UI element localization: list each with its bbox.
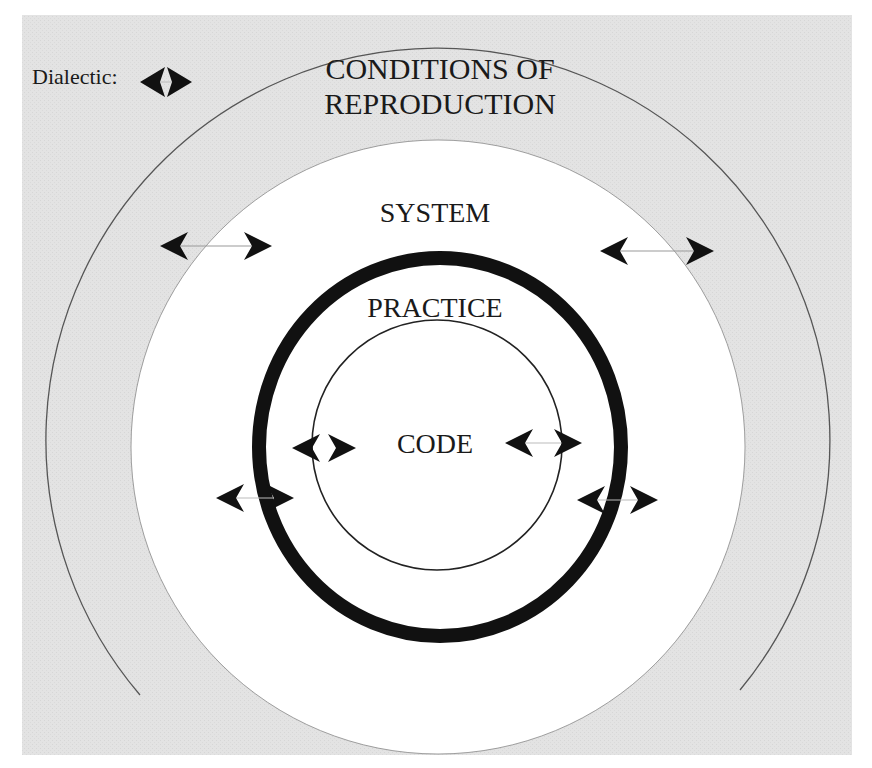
code-label: CODE xyxy=(365,428,505,460)
legend-label: Dialectic: xyxy=(32,64,118,89)
conditions-of-reproduction-label: CONDITIONS OF REPRODUCTION xyxy=(270,52,610,121)
practice-label: PRACTICE xyxy=(335,292,535,324)
conditions-label-line2: REPRODUCTION xyxy=(270,87,610,122)
conditions-label-line1: CONDITIONS OF xyxy=(270,52,610,87)
system-label: SYSTEM xyxy=(335,197,535,229)
